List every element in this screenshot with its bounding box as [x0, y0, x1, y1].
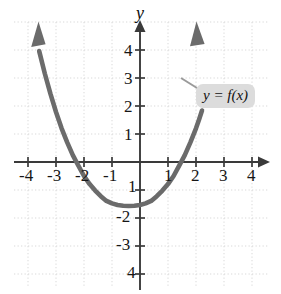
x-tick-label-4: 4 — [247, 167, 256, 184]
y-axis — [135, 20, 146, 290]
grid-lines — [14, 22, 268, 288]
y-tick-label--3: -3 — [116, 236, 130, 253]
coordinate-plane — [0, 0, 281, 294]
x-tick-label-2: 2 — [191, 167, 200, 184]
function-label-callout: y = f(x) — [196, 84, 255, 108]
x-tick-label--2: -2 — [75, 167, 89, 184]
x-tick-label-3: 3 — [219, 167, 228, 184]
y-tick-label--2: -2 — [116, 208, 130, 225]
x-tick-label--1: -1 — [103, 167, 117, 184]
x-tick-label--3: -3 — [47, 167, 61, 184]
y-tick-label--4: 4 — [127, 264, 136, 281]
y-tick-label--1: 1 — [128, 178, 137, 195]
y-axis-title: y — [136, 4, 144, 22]
y-tick-label-4: 4 — [124, 42, 133, 59]
y-tick-label-3: 3 — [124, 70, 133, 87]
x-tick-label-1: 1 — [164, 167, 173, 184]
y-tick-label-1: 1 — [124, 126, 133, 143]
graph-figure: y -4 -3 -2 -1 1 2 3 4 4 3 2 1 1 -2 -3 4 … — [0, 0, 281, 294]
x-tick-label--4: -4 — [19, 167, 33, 184]
y-tick-label-2: 2 — [124, 98, 133, 115]
